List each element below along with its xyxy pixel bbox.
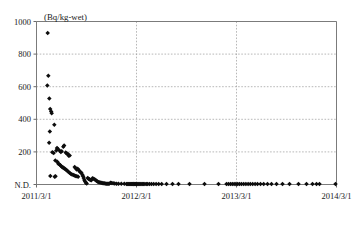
x-tick-label: 2014/3/1 xyxy=(321,191,351,201)
data-point xyxy=(48,174,53,179)
data-point xyxy=(176,182,181,187)
tick-marks-layer xyxy=(34,22,337,188)
data-point xyxy=(274,182,279,187)
x-axis-labels: 2011/3/12012/3/12013/3/12014/3/1 xyxy=(22,191,352,201)
data-point xyxy=(304,182,309,187)
y-tick-label: 200 xyxy=(18,147,31,157)
data-point xyxy=(280,182,285,187)
data-point xyxy=(265,182,270,187)
y-tick-label: 600 xyxy=(18,82,31,92)
x-tick-label: 2012/3/1 xyxy=(121,191,151,201)
data-point xyxy=(269,182,274,187)
chart-canvas: 1000800600400200N.D. 2011/3/12012/3/1201… xyxy=(0,0,354,228)
data-point xyxy=(47,96,52,101)
data-point xyxy=(164,182,169,187)
data-point xyxy=(187,182,192,187)
y-axis-unit-label: (Bq/kg-wet) xyxy=(44,12,87,22)
data-point xyxy=(333,182,338,187)
data-point xyxy=(47,141,52,146)
y-axis-labels: 1000800600400200N.D. xyxy=(14,17,31,190)
scatter-chart: 1000800600400200N.D. 2011/3/12012/3/1201… xyxy=(0,0,354,228)
grid-layer xyxy=(37,22,337,185)
x-tick-label: 2011/3/1 xyxy=(22,191,52,201)
data-point xyxy=(46,74,51,79)
data-point xyxy=(296,182,301,187)
data-point xyxy=(159,182,164,187)
data-point xyxy=(48,129,53,134)
axes-layer xyxy=(37,22,337,185)
data-point xyxy=(45,83,50,88)
data-point xyxy=(45,31,50,36)
y-tick-label: N.D. xyxy=(14,180,31,190)
x-tick-label: 2013/3/1 xyxy=(221,191,251,201)
y-tick-label: 800 xyxy=(18,49,31,59)
data-point xyxy=(52,122,57,127)
y-tick-label: 400 xyxy=(18,114,31,124)
data-point xyxy=(202,182,207,187)
data-point xyxy=(310,182,315,187)
y-tick-label: 1000 xyxy=(14,17,31,27)
data-point xyxy=(216,182,221,187)
data-point xyxy=(317,182,322,187)
data-point xyxy=(170,182,175,187)
data-point xyxy=(287,182,292,187)
